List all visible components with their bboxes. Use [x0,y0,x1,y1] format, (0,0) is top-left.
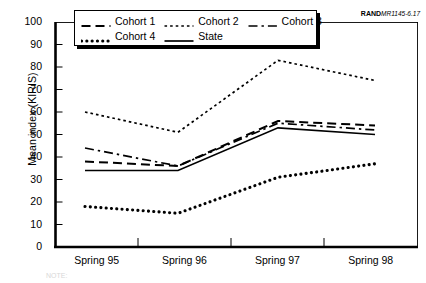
dotted-fine-line-key [164,17,194,27]
legend-label: Cohort 1 [115,16,155,27]
solid-line-key [164,32,194,42]
series-line-cohort-2 [85,60,375,132]
legend-item-cohort-2: Cohort 2 [164,16,238,27]
rand-code: MR1145-6.17 [381,10,420,17]
legend-row: Cohort 4State [81,29,311,44]
data-series-group [85,60,375,213]
legend-row: Cohort 1Cohort 2Cohort 3 [81,14,311,29]
legend-label: Cohort 3 [282,16,322,27]
legend-item-cohort-1: Cohort 1 [81,16,155,27]
chart-legend: Cohort 1Cohort 2Cohort 3Cohort 4State [74,10,317,46]
rand-source-stamp: RANDMR1145-6.17 [361,10,420,17]
legend-label: Cohort 2 [198,16,238,27]
legend-item-cohort-3: Cohort 3 [248,16,322,27]
axis-lines [54,22,418,248]
chart-figure: Mean index (KIRIS) 100908070605040302010… [0,0,426,283]
legend-item-cohort-4: Cohort 4 [81,31,155,42]
dotted-thick-line-key [81,32,111,42]
legend-label: Cohort 4 [115,31,155,42]
series-line-cohort-3 [85,123,375,166]
rand-brand: RAND [361,10,381,17]
dash-dot-line-key [248,17,278,27]
dashed-line-key [81,17,111,27]
x-axis-ticks [138,238,324,246]
figure-note: NOTE: [46,272,67,279]
legend-item-state: State [164,31,223,42]
legend-label: State [198,31,223,42]
